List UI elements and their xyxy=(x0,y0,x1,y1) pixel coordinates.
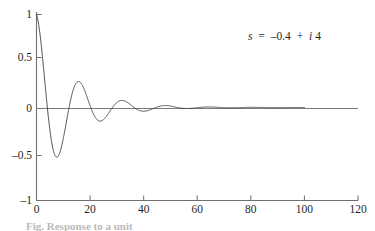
annotation-s: s xyxy=(248,30,253,42)
x-tick-label-80: 80 xyxy=(245,203,257,215)
x-tick-label-100: 100 xyxy=(296,203,314,215)
x-tick-label-60: 60 xyxy=(191,203,203,215)
figure-container: 1 0.5 0 –0.5 –1 0 20 40 60 80 100 120 s … xyxy=(0,0,375,231)
y-tick-label-minus-0.5: –0.5 xyxy=(11,149,32,161)
x-tick-label-120: 120 xyxy=(349,203,367,215)
annotation-plus: + xyxy=(297,30,304,42)
annotation-imag: 4 xyxy=(315,30,321,42)
y-tick-label-1: 1 xyxy=(26,8,32,20)
x-tick-label-0: 0 xyxy=(34,203,40,215)
partial-caption: Fig. Response to a unit xyxy=(26,221,226,231)
x-axis-ticks xyxy=(37,196,359,201)
annotation-imag-unit: i xyxy=(309,30,312,42)
y-tick-label-0.5: 0.5 xyxy=(18,51,33,63)
annotation-real: –0.4 xyxy=(270,30,291,42)
x-tick-label-20: 20 xyxy=(84,203,96,215)
y-tick-label-0: 0 xyxy=(26,102,32,114)
y-tick-label-minus-1: –1 xyxy=(20,194,33,206)
damped-oscillation-chart: 1 0.5 0 –0.5 –1 0 20 40 60 80 100 120 s … xyxy=(0,0,375,231)
pole-annotation: s = –0.4 + i 4 xyxy=(248,30,321,42)
annotation-equals: = xyxy=(258,30,265,42)
x-tick-label-40: 40 xyxy=(138,203,150,215)
